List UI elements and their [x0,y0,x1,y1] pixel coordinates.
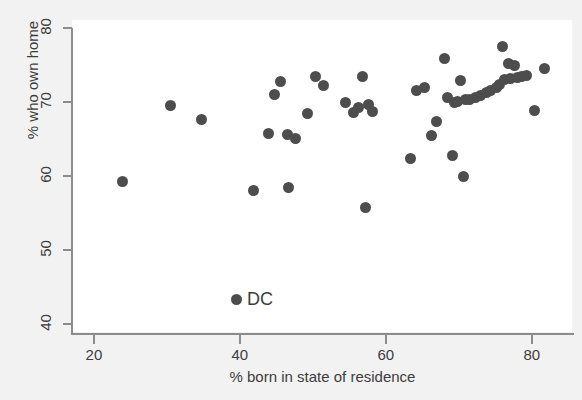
x-axis-line [71,333,574,335]
y-axis-tick-label: 40 [37,309,54,335]
scatter-point [117,176,128,187]
scatter-point [165,100,176,111]
y-axis-tick [63,249,72,251]
annotation-label-dc: DC [247,289,273,310]
x-axis-tick [531,335,533,344]
x-axis-tick [239,335,241,344]
y-axis-tick-label-wrapper: 50 [32,239,58,261]
y-axis-tick [63,323,72,325]
y-axis-tick [63,27,72,29]
plot-panel [72,20,572,332]
scatter-point [539,63,550,74]
x-axis-tick-label: 80 [510,346,554,363]
y-axis-title-wrapper: % who own home [24,0,44,180]
x-axis-tick-label: 60 [364,346,408,363]
x-axis-tick-label: 20 [72,346,116,363]
scatter-point [360,202,371,213]
x-axis-tick [385,335,387,344]
scatter-point [458,171,469,182]
scatter-plot-figure: 4050607080 20406080 DC % who own home % … [0,0,582,400]
y-axis-line [71,28,73,334]
scatter-point [290,133,301,144]
x-axis-tick-label: 40 [218,346,262,363]
y-axis-tick [63,101,72,103]
scatter-point [340,97,351,108]
x-axis-title: % born in state of residence [71,368,574,385]
y-axis-tick-label: 50 [37,235,54,261]
scatter-point [419,82,430,93]
scatter-point [302,108,313,119]
scatter-point [447,150,458,161]
scatter-point [431,116,442,127]
x-axis-tick [93,335,95,344]
y-axis-tick [63,175,72,177]
scatter-point [196,114,207,125]
scatter-point [283,182,294,193]
y-axis-title: % who own home [24,0,41,180]
scatter-point [318,80,329,91]
y-axis-tick-label-wrapper: 40 [32,313,58,335]
scatter-point [455,75,466,86]
